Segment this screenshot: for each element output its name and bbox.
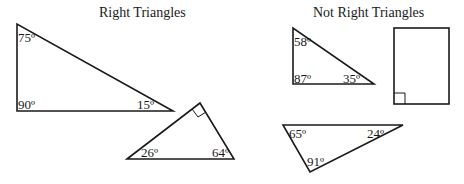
title-right-triangles: Right Triangles (99, 5, 186, 21)
right-angle-marker-rectangle (394, 93, 405, 104)
angle-label: 64º (212, 146, 229, 159)
diagram-canvas (0, 0, 464, 184)
angle-label: 87º (294, 72, 311, 85)
title-not-right-triangles: Not Right Triangles (313, 5, 424, 21)
angle-label: 24º (367, 127, 384, 140)
angle-label: 65º (289, 127, 306, 140)
angle-label: 26º (141, 146, 158, 159)
angle-label: 35º (343, 72, 360, 85)
angle-label: 90º (18, 98, 35, 111)
angle-label: 75º (18, 31, 35, 44)
angle-label: 15º (137, 98, 154, 111)
angle-label: 58º (294, 35, 311, 48)
angle-label: 91º (307, 155, 324, 168)
